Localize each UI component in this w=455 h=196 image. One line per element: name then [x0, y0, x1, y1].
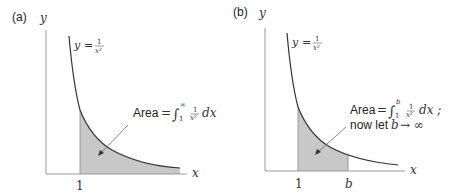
- panel-b-label: (b): [233, 5, 248, 19]
- panel-a-label: (a): [12, 10, 27, 24]
- panel-b-frac-num: 1: [409, 103, 413, 111]
- panel-a-curve-num: 1: [97, 38, 101, 46]
- panel-b-curve-lhs: y: [291, 36, 299, 49]
- panel-b-tick-1: 1: [295, 177, 303, 191]
- panel-b-dx: dx ;: [419, 103, 441, 117]
- panel-a-frac-den: x²: [190, 114, 197, 122]
- panel-a-curve-eq: =: [84, 39, 93, 52]
- panel-a-tick-1: 1: [76, 179, 84, 193]
- panel-a-x-axis-label: x: [192, 166, 199, 180]
- panel-b-y-axis-label: y: [258, 6, 266, 20]
- panel-a-curve-den: x²: [95, 47, 102, 55]
- panel-a-arrow: [101, 125, 128, 153]
- panel-a-frac-num: 1: [193, 106, 197, 114]
- panel-b-curve-den: x²: [313, 44, 320, 52]
- panel-a-area-word: Area: [133, 106, 159, 120]
- panel-b-line2-arrow: → ∞: [400, 118, 424, 132]
- panel-a-area-eq: =: [161, 106, 171, 120]
- panel-a-y-axis-label: y: [39, 11, 47, 25]
- panel-b-shaded-area: [298, 107, 348, 171]
- panel-a-curve-lhs: y: [73, 39, 81, 52]
- panel-b-line2-text: now let: [350, 118, 389, 132]
- figure: (a) y x 1 y = 1 x² Area = ∫ ∞ 1 1 x² dx …: [0, 0, 455, 196]
- panel-b-curve-eq: =: [302, 36, 311, 49]
- panel-b-x-axis-label: x: [410, 163, 417, 177]
- panel-b-tick-b: b: [345, 177, 353, 191]
- panel-a-dx: dx: [202, 106, 217, 120]
- panel-a-lower: 1: [179, 115, 183, 123]
- panel-b-upper: b: [396, 98, 401, 106]
- panel-b-line2-var: b: [391, 118, 399, 132]
- panel-a-upper: ∞: [180, 101, 186, 109]
- panel-a: (a) y x 1 y = 1 x² Area = ∫ ∞ 1 1 x² dx: [12, 10, 217, 193]
- panel-b-area-eq: =: [377, 103, 387, 117]
- panel-b-area-word: Area: [350, 103, 376, 117]
- panel-b-curve-num: 1: [315, 35, 319, 43]
- panel-b: (b) y x 1 b y = 1 x² Area = ∫ b 1 1 x² d…: [233, 5, 441, 191]
